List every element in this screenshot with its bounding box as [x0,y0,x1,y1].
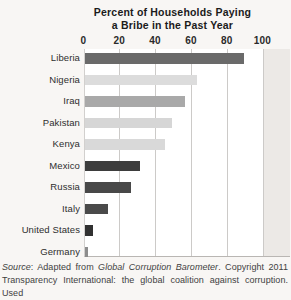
category-label-kenya: Kenya [0,138,80,150]
source-italic-text: Source [2,262,31,272]
source-italic-text: Global Corruption Barometer [98,262,218,272]
plot-area [84,49,264,257]
bar-pakistan [85,118,173,129]
bar-germany [85,247,89,258]
bribery-bar-chart-figure: Percent of Households Paying a Bribe in … [0,0,290,292]
source-text: Transparency International: the global c… [2,275,288,298]
bar-nigeria [85,75,198,86]
bar-kenya [85,139,166,150]
plot-right-margin-strip [264,49,291,257]
bar-mexico [85,161,140,172]
category-label-italy: Italy [0,203,80,215]
category-label-russia: Russia [0,181,80,193]
x-tick-label-20: 20 [114,35,126,46]
x-tick-label-0: 0 [81,35,87,46]
x-axis-ticks: 020406080100 [0,35,290,48]
chart-title-line-1: Percent of Households Paying [55,6,290,19]
category-label-iraq: Iraq [0,95,80,107]
source-line-2: Transparency International: the global c… [2,274,288,300]
category-label-united-states: United States [0,224,80,236]
x-tick-label-100: 100 [254,35,271,46]
bar-italy [85,204,108,215]
x-tick-label-80: 80 [221,35,233,46]
category-label-mexico: Mexico [0,160,80,172]
source-note: Source: Adapted from Global Corruption B… [2,261,288,300]
x-tick-label-60: 60 [185,35,197,46]
category-label-germany: Germany [0,246,80,258]
bar-russia [85,182,132,193]
category-label-liberia: Liberia [0,52,80,64]
source-text: . Copyright 2011 [218,262,288,272]
gridline-80 [227,49,228,256]
category-label-nigeria: Nigeria [0,74,80,86]
chart-title-line-2: a Bribe in the Past Year [55,19,290,32]
category-labels: LiberiaNigeriaIraqPakistanKenyaMexicoRus… [0,49,80,256]
bar-liberia [85,53,244,64]
category-label-pakistan: Pakistan [0,117,80,129]
chart-title: Percent of Households Paying a Bribe in … [55,6,290,32]
bar-iraq [85,96,185,107]
x-tick-label-40: 40 [149,35,161,46]
gridline-100 [263,49,264,256]
source-line-1: Source: Adapted from Global Corruption B… [2,261,288,274]
source-text: : Adapted from [31,262,98,272]
bar-united-states [85,225,94,236]
